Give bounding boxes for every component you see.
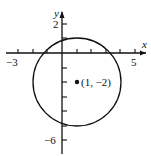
x-axis-arrow-icon <box>140 51 146 56</box>
x-axis-label: x <box>141 38 147 50</box>
coordinate-graph: y x 2 −6 −3 5 (1, −2) <box>0 0 151 156</box>
y-axis-arrow-icon <box>60 11 65 18</box>
y-tick-label-neg6: −6 <box>44 134 56 146</box>
center-point <box>75 80 79 84</box>
y-tick-label-2: 2 <box>53 18 59 30</box>
x-tick-label-neg3: −3 <box>6 56 18 68</box>
x-tick-label-5: 5 <box>131 56 137 68</box>
center-point-label: (1, −2) <box>81 76 111 89</box>
y-ticks <box>62 24 67 140</box>
